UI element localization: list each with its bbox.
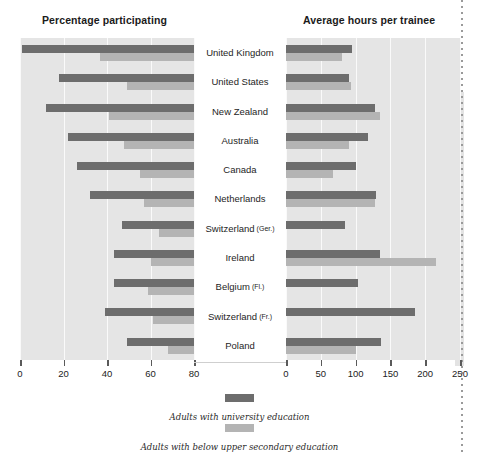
bar-left-below-upper-secondary bbox=[148, 287, 194, 295]
country-label: Switzerland(Ger.) bbox=[194, 214, 286, 243]
legend-entry-university: Adults with university education bbox=[0, 394, 479, 424]
axis-tick-label: 40 bbox=[102, 368, 113, 379]
gridline bbox=[460, 38, 461, 360]
legend-swatch-below-upper-secondary bbox=[225, 424, 254, 432]
chart-plot-area-right bbox=[286, 38, 460, 360]
bar-right-university bbox=[286, 308, 415, 316]
chart-row bbox=[286, 67, 460, 96]
axis-tick bbox=[460, 360, 462, 366]
bar-left-university bbox=[46, 104, 194, 112]
bar-right-below-upper-secondary bbox=[286, 346, 356, 354]
chart-row bbox=[286, 97, 460, 126]
country-label: Canada bbox=[194, 155, 286, 184]
bar-right-below-upper-secondary bbox=[286, 199, 375, 207]
bar-left-below-upper-secondary bbox=[159, 229, 194, 237]
chart-row bbox=[20, 67, 194, 96]
country-label: Netherlands bbox=[194, 184, 286, 213]
chart-row bbox=[286, 184, 460, 213]
axis-baseline bbox=[194, 362, 286, 363]
chart-row bbox=[286, 301, 460, 330]
chart-plot-area-left bbox=[20, 38, 194, 360]
panel-title-percentage-participating: Percentage participating bbox=[42, 14, 167, 26]
bar-left-university bbox=[22, 45, 194, 53]
chart-row bbox=[20, 38, 194, 67]
chart-row bbox=[286, 243, 460, 272]
bar-left-university bbox=[114, 279, 194, 287]
chart-row bbox=[20, 301, 194, 330]
axis-tick bbox=[390, 360, 392, 366]
bar-left-university bbox=[105, 308, 194, 316]
chart-row bbox=[286, 272, 460, 301]
bar-left-university bbox=[90, 191, 194, 199]
bar-left-below-upper-secondary bbox=[109, 112, 194, 120]
chart-row bbox=[20, 155, 194, 184]
chart-row bbox=[20, 331, 194, 360]
bar-left-university bbox=[114, 250, 194, 258]
axis-tick bbox=[107, 360, 109, 366]
bar-left-university bbox=[59, 74, 194, 82]
axis-tick-label: 50 bbox=[316, 368, 327, 379]
axis-tick-label: 250 bbox=[452, 368, 468, 379]
country-label: Switzerland(Fr.) bbox=[194, 301, 286, 330]
axis-tick-label: 200 bbox=[417, 368, 433, 379]
bar-left-university bbox=[122, 221, 194, 229]
bar-right-university bbox=[286, 45, 352, 53]
axis-tick-label: 0 bbox=[17, 368, 22, 379]
legend-label-below-upper-secondary: Adults with below upper secondary educat… bbox=[141, 442, 339, 452]
bar-right-below-upper-secondary bbox=[286, 170, 333, 178]
legend-entry-below-upper-secondary: Adults with below upper secondary educat… bbox=[0, 424, 479, 453]
bar-right-university bbox=[286, 279, 358, 287]
bar-left-below-upper-secondary bbox=[168, 346, 194, 354]
chart-row bbox=[286, 331, 460, 360]
bar-left-below-upper-secondary bbox=[144, 199, 194, 207]
chart-row bbox=[286, 126, 460, 155]
panel-title-average-hours-per-trainee: Average hours per trainee bbox=[303, 14, 435, 26]
country-label: Australia bbox=[194, 126, 286, 155]
country-label: New Zealand bbox=[194, 97, 286, 126]
chart-row bbox=[20, 243, 194, 272]
axis-tick bbox=[64, 360, 66, 366]
legend-swatch-university bbox=[225, 394, 254, 402]
axis-tick bbox=[151, 360, 153, 366]
axis-tick-label: 20 bbox=[58, 368, 69, 379]
bar-left-university bbox=[68, 133, 194, 141]
bar-left-below-upper-secondary bbox=[100, 53, 194, 61]
page-edge-dotted-rule bbox=[461, 0, 463, 453]
axis-tick-label: 100 bbox=[348, 368, 364, 379]
bar-left-below-upper-secondary bbox=[124, 141, 194, 149]
bar-right-below-upper-secondary bbox=[286, 141, 349, 149]
chart-row bbox=[20, 214, 194, 243]
bar-right-below-upper-secondary bbox=[286, 53, 342, 61]
bar-right-below-upper-secondary bbox=[286, 82, 351, 90]
bar-right-university bbox=[286, 191, 376, 199]
axis-tick-label: 60 bbox=[145, 368, 156, 379]
axis-tick bbox=[425, 360, 427, 366]
x-axis-right: 050100150200250 bbox=[286, 360, 460, 384]
axis-tick-label: 0 bbox=[283, 368, 288, 379]
country-label: United States bbox=[194, 67, 286, 96]
bar-right-university bbox=[286, 162, 356, 170]
bar-left-below-upper-secondary bbox=[140, 170, 194, 178]
bar-right-university bbox=[286, 221, 345, 229]
chart-row bbox=[20, 272, 194, 301]
bar-left-below-upper-secondary bbox=[151, 258, 195, 266]
chart-row bbox=[286, 38, 460, 67]
country-label: United Kingdom bbox=[194, 38, 286, 67]
bar-right-university bbox=[286, 250, 380, 258]
country-label-column: United KingdomUnited StatesNew ZealandAu… bbox=[194, 38, 286, 360]
axis-tick bbox=[20, 360, 22, 366]
axis-tick-label: 80 bbox=[189, 368, 200, 379]
axis-tick bbox=[194, 360, 196, 366]
x-axis-left: 806040200 bbox=[20, 360, 194, 384]
legend-label-university: Adults with university education bbox=[170, 412, 310, 422]
bar-left-below-upper-secondary bbox=[153, 316, 194, 324]
bar-right-university bbox=[286, 74, 349, 82]
bar-right-university bbox=[286, 338, 381, 346]
bar-right-below-upper-secondary bbox=[286, 258, 436, 266]
bar-left-below-upper-secondary bbox=[127, 82, 194, 90]
country-label: Ireland bbox=[194, 243, 286, 272]
chart-row bbox=[286, 214, 460, 243]
bar-right-below-upper-secondary bbox=[286, 112, 380, 120]
chart-row bbox=[286, 155, 460, 184]
axis-tick-label: 150 bbox=[382, 368, 398, 379]
